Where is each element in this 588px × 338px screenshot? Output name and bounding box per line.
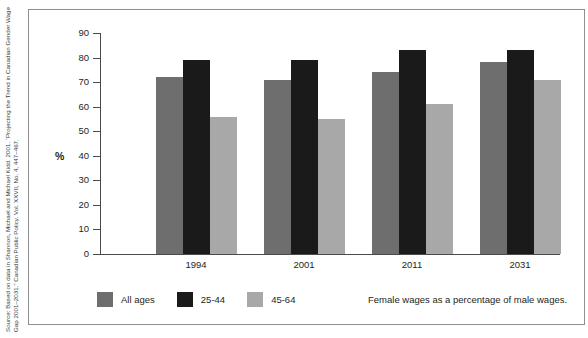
x-axis-group-label: 2031: [490, 259, 550, 270]
legend-item-label: All ages: [121, 294, 155, 305]
chart-caption: Female wages as a percentage of male wag…: [368, 294, 567, 305]
bar: [210, 117, 237, 255]
bar: [372, 72, 399, 254]
bar: [480, 62, 507, 254]
legend-item: 45-64: [247, 292, 295, 307]
legend-swatch-all-ages: [97, 292, 113, 307]
bar: [426, 104, 453, 254]
x-axis-group-label: 2011: [382, 259, 442, 270]
source-note-text: Source: Based on data in Shannon, Michae…: [4, 2, 21, 332]
chart-frame: % 0102030405060708090 1994200120112031 A…: [28, 9, 585, 325]
bar: [291, 60, 318, 254]
x-axis-group-label: 2001: [274, 259, 334, 270]
legend-swatch-25-44: [177, 292, 193, 307]
bar: [264, 80, 291, 254]
bar: [507, 50, 534, 254]
bar: [534, 80, 561, 254]
figure-container: Source: Based on data in Shannon, Michae…: [0, 0, 588, 338]
legend-item-label: 45-64: [271, 294, 295, 305]
legend-item-label: 25-44: [201, 294, 225, 305]
chart-legend: All ages25-4445-64: [97, 292, 317, 307]
x-axis-group-label: 1994: [166, 259, 226, 270]
bar: [318, 119, 345, 254]
bar: [156, 77, 183, 254]
bar: [183, 60, 210, 254]
bars-layer: [29, 10, 586, 326]
legend-swatch-45-64: [247, 292, 263, 307]
plot-area: % 0102030405060708090 1994200120112031: [29, 10, 586, 326]
bar: [399, 50, 426, 254]
source-note: Source: Based on data in Shannon, Michae…: [0, 0, 26, 338]
legend-item: 25-44: [177, 292, 225, 307]
legend-item: All ages: [97, 292, 155, 307]
